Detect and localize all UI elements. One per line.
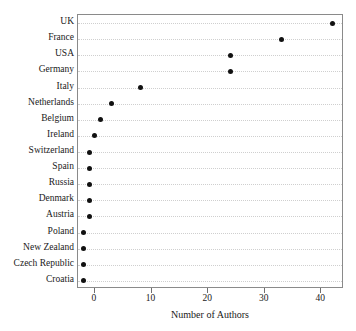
data-point — [109, 101, 114, 106]
x-axis-title: Number of Authors — [77, 310, 343, 320]
data-point — [138, 85, 143, 90]
y-axis-label: Russia — [0, 178, 74, 188]
x-axis-tick-label: 30 — [259, 294, 269, 304]
data-point — [81, 230, 86, 235]
data-point — [87, 150, 92, 155]
y-axis-label: Croatia — [0, 275, 74, 285]
gridline — [78, 23, 342, 24]
data-point — [81, 262, 86, 267]
gridline — [78, 249, 342, 250]
x-axis-tick-label: 10 — [146, 294, 156, 304]
y-axis-label: USA — [0, 50, 74, 60]
gridline — [78, 55, 342, 56]
data-point — [92, 133, 97, 138]
gridline — [78, 71, 342, 72]
gridline — [78, 281, 342, 282]
y-axis-label: Poland — [0, 227, 74, 237]
dot-plot-chart: UKFranceUSAGermanyItalyNetherlandsBelgiu… — [0, 0, 356, 331]
data-point — [87, 182, 92, 187]
y-axis-label: Austria — [0, 211, 74, 221]
plot-area — [77, 14, 343, 288]
y-axis-label: Ireland — [0, 130, 74, 140]
gridline — [78, 200, 342, 201]
y-axis-label: UK — [0, 17, 74, 27]
x-axis-tick-label: 20 — [202, 294, 212, 304]
gridline — [78, 168, 342, 169]
y-axis-label: Italy — [0, 82, 74, 92]
gridline — [78, 265, 342, 266]
data-point — [81, 278, 86, 283]
y-axis-label: Switzerland — [0, 146, 74, 156]
gridline — [78, 120, 342, 121]
gridline — [78, 233, 342, 234]
data-point — [279, 37, 284, 42]
data-point — [87, 214, 92, 219]
y-axis-label: Denmark — [0, 195, 74, 205]
data-point — [81, 246, 86, 251]
y-axis-label: France — [0, 33, 74, 43]
y-axis-label: New Zealand — [0, 243, 74, 253]
gridline — [78, 104, 342, 105]
y-axis-label: Belgium — [0, 114, 74, 124]
data-point — [87, 198, 92, 203]
y-axis-label: Germany — [0, 66, 74, 76]
y-axis-label: Spain — [0, 162, 74, 172]
y-axis-label: Czech Republic — [0, 259, 74, 269]
gridline — [78, 39, 342, 40]
y-axis-category-labels: UKFranceUSAGermanyItalyNetherlandsBelgiu… — [0, 14, 74, 288]
data-point — [87, 166, 92, 171]
gridline — [78, 136, 342, 137]
x-axis-tick-labels: 010203040 — [77, 294, 343, 308]
data-point — [228, 69, 233, 74]
gridline — [78, 216, 342, 217]
data-point — [330, 21, 335, 26]
gridline — [78, 184, 342, 185]
gridline — [78, 88, 342, 89]
gridline — [78, 152, 342, 153]
data-point — [98, 117, 103, 122]
x-axis-tick-label: 0 — [92, 294, 97, 304]
x-axis-tick-label: 40 — [316, 294, 326, 304]
data-point — [228, 53, 233, 58]
y-axis-label: Netherlands — [0, 98, 74, 108]
